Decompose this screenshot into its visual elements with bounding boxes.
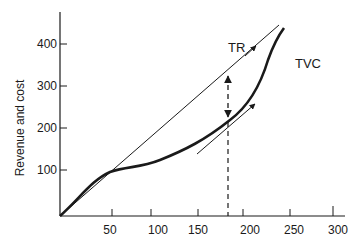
profit-maximization-chart: 400 300 200 100 50 100 150 200 250 300 R… xyxy=(0,0,363,249)
x-tick-label: 300 xyxy=(328,223,348,237)
x-tick-label: 100 xyxy=(148,223,168,237)
x-ticks: 50 100 150 200 250 300 xyxy=(103,206,348,237)
y-tick-label: 400 xyxy=(37,37,57,51)
y-tick-label: 100 xyxy=(37,163,57,177)
x-tick-label: 150 xyxy=(188,223,208,237)
x-tick-label: 50 xyxy=(103,223,117,237)
tr-arrow-icon xyxy=(245,46,256,56)
x-tick-label: 250 xyxy=(284,223,304,237)
tr-label: TR xyxy=(228,40,245,55)
y-ticks: 400 300 200 100 xyxy=(37,37,67,177)
tr-line xyxy=(60,25,279,216)
tangent-arrow-icon xyxy=(197,104,255,154)
y-axis-label: Revenue and cost xyxy=(13,79,27,176)
y-tick-label: 200 xyxy=(37,121,57,135)
tvc-label: TVC xyxy=(295,56,321,71)
tvc-curve xyxy=(60,28,284,216)
y-tick-label: 300 xyxy=(37,79,57,93)
x-tick-label: 200 xyxy=(240,223,260,237)
